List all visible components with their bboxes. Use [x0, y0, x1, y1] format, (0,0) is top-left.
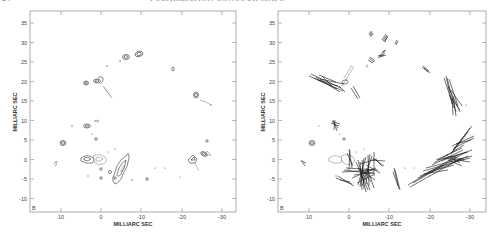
y-axis: 35 30 25 20 15 10 5 0 -5 -10 MILLIARC SE…	[260, 20, 486, 202]
y-tick-label: 25	[269, 59, 275, 65]
y-tick-label: -10	[267, 196, 275, 202]
x-tick-label: 0	[99, 214, 102, 220]
x-tick-label: -30	[218, 214, 226, 220]
beam-marker: B	[280, 205, 284, 211]
x-axis: 10 0 -10 -20 -30 MILLIARC SEC	[58, 11, 226, 227]
x-axis: 10 0 -10 -20 -30 MILLIARC SEC	[306, 11, 474, 227]
y-tick-label: -10	[19, 196, 27, 202]
y-tick-label: 30	[21, 40, 27, 46]
right-polarization-map: 35 30 25 20 15 10 5 0 -5 -10 MILLIARC SE…	[248, 0, 496, 232]
x-tick-label: -10	[385, 214, 393, 220]
x-axis-title: MILLIARC SEC	[362, 221, 401, 227]
x-tick-label: 10	[306, 214, 312, 220]
y-tick-label: 0	[272, 157, 275, 163]
y-tick-label: -5	[270, 176, 275, 182]
x-axis-title: MILLIARC SEC	[113, 221, 152, 227]
y-tick-label: 5	[24, 137, 27, 143]
y-tick-label: 0	[24, 157, 27, 163]
plot-frame	[30, 11, 236, 212]
y-tick-label: 25	[21, 59, 27, 65]
y-tick-label: -5	[22, 176, 27, 182]
y-axis-title: MILLIARC SEC	[260, 92, 266, 131]
y-tick-label: 35	[21, 20, 27, 26]
y-tick-label: 5	[272, 137, 275, 143]
beam-marker: B	[32, 205, 36, 211]
x-tick-label: -30	[466, 214, 474, 220]
y-tick-label: 10	[21, 118, 27, 124]
y-tick-label: 15	[269, 98, 275, 104]
left-plot-svg: 35 30 25 20 15 10 5 0 -5 -10 MILLIARC SE…	[0, 0, 248, 232]
x-tick-label: -10	[137, 214, 145, 220]
y-tick-label: 15	[21, 98, 27, 104]
plot-frame	[278, 11, 486, 212]
contour-features	[54, 50, 212, 184]
x-tick-label: 0	[347, 214, 350, 220]
y-axis-title: MILLIARC SEC	[12, 92, 18, 131]
right-plot-svg: 35 30 25 20 15 10 5 0 -5 -10 MILLIARC SE…	[248, 0, 496, 232]
y-tick-label: 30	[269, 40, 275, 46]
y-tick-label: 20	[269, 79, 275, 85]
x-tick-label: 10	[58, 214, 64, 220]
y-tick-label: 20	[21, 79, 27, 85]
y-tick-label: 10	[269, 118, 275, 124]
left-contour-map: 35 30 25 20 15 10 5 0 -5 -10 MILLIARC SE…	[0, 0, 248, 232]
x-tick-label: -20	[426, 214, 434, 220]
y-tick-label: 35	[269, 20, 275, 26]
polarization-vectors	[301, 31, 474, 192]
y-axis: 35 30 25 20 15 10 5 0 -5 -10 MILLIARC SE…	[12, 20, 236, 202]
x-tick-label: -20	[178, 214, 186, 220]
